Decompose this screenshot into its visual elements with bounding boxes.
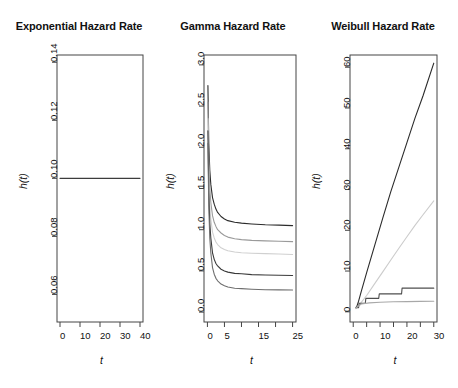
x-tick-label: 20	[100, 330, 111, 341]
x-tick-label: 10	[380, 330, 391, 341]
y-tick-label: 2.5	[195, 93, 206, 106]
chart-panel-2: Gamma Hazard Rate	[158, 0, 308, 388]
y-tick-label: 0.5	[195, 258, 206, 271]
chart-panel-1: Exponential Hazard Rate	[0, 0, 158, 388]
y-tick-label: 0	[341, 307, 352, 312]
y-tick-label: 10	[341, 260, 352, 271]
x-axis-label: t	[100, 354, 103, 366]
x-tick-label: 0	[353, 330, 358, 341]
y-tick-label: 2.0	[195, 134, 206, 147]
x-tick-label: 10	[80, 330, 91, 341]
x-tick-label: 30	[120, 330, 131, 341]
x-tick-label: 0	[207, 330, 212, 341]
y-tick-label: 0.08	[48, 218, 59, 237]
y-tick-label: 3.0	[195, 52, 206, 65]
x-axis-label: t	[394, 354, 397, 366]
y-tick-label: 0.14	[48, 44, 59, 63]
x-tick-label: 40	[140, 330, 151, 341]
y-tick-label: 30	[341, 179, 352, 190]
y-tick-label: 1.5	[195, 175, 206, 188]
y-axis-label: h(t)	[17, 173, 29, 189]
panel-title: Exponential Hazard Rate	[0, 20, 158, 32]
y-tick-label: 0.12	[48, 102, 59, 121]
x-tick-label: 0	[60, 330, 65, 341]
panel-title: Weibull Hazard Rate	[308, 20, 458, 32]
x-tick-label: 25	[293, 330, 304, 341]
y-axis-label: h(t)	[164, 173, 176, 189]
x-tick-label: 30	[434, 330, 445, 341]
y-tick-label: 40	[341, 138, 352, 149]
x-tick-label: 20	[407, 330, 418, 341]
y-tick-label: 20	[341, 220, 352, 231]
y-tick-label: 1.0	[195, 216, 206, 229]
y-tick-label: 50	[341, 97, 352, 108]
x-tick-label: 15	[259, 330, 270, 341]
hazard-rate-figure: Exponential Hazard Rate0.060.080.100.120…	[0, 0, 458, 388]
y-tick-label: 60	[341, 57, 352, 68]
x-axis-label: t	[250, 354, 253, 366]
y-tick-label: 0.0	[195, 299, 206, 312]
y-axis-label: h(t)	[310, 173, 322, 189]
y-tick-label: 0.06	[48, 276, 59, 295]
x-tick-label: 5	[224, 330, 229, 341]
y-tick-label: 0.10	[48, 160, 59, 179]
panel-title: Gamma Hazard Rate	[158, 20, 308, 32]
